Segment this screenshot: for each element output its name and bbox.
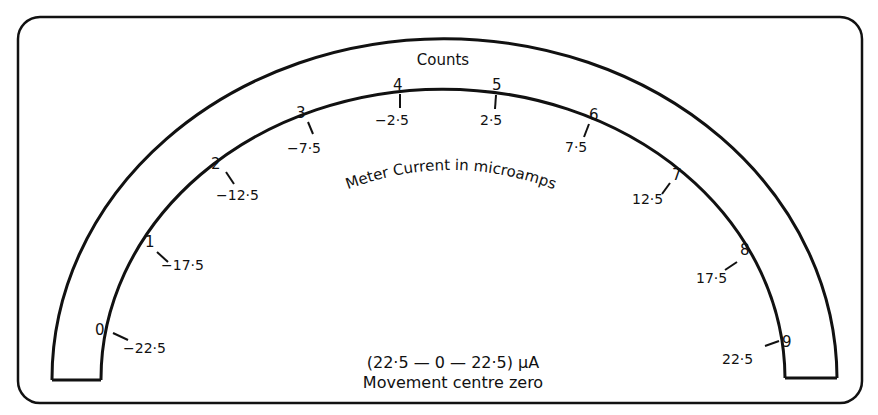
count-label-8: 8 bbox=[740, 241, 750, 259]
tick-3 bbox=[308, 122, 313, 134]
inner-arc bbox=[101, 89, 785, 380]
count-label-0: 0 bbox=[95, 321, 105, 339]
count-labels: 0 1 2 3 4 5 6 7 8 9 bbox=[95, 76, 792, 351]
count-label-2: 2 bbox=[211, 155, 221, 173]
count-label-1: 1 bbox=[145, 233, 155, 251]
current-label-6: 7·5 bbox=[565, 139, 587, 155]
count-label-6: 6 bbox=[589, 106, 599, 124]
scale-band bbox=[52, 39, 837, 380]
tick-marks bbox=[113, 94, 779, 346]
tick-7 bbox=[662, 183, 670, 194]
count-label-5: 5 bbox=[492, 76, 502, 94]
current-label-0: −22·5 bbox=[123, 340, 166, 356]
tick-2 bbox=[226, 172, 234, 184]
current-labels: −22·5 −17·5 −12·5 −7·5 −2·5 2·5 7·5 12·5… bbox=[123, 112, 753, 367]
meter-scale-diagram: 0 1 2 3 4 5 6 7 8 9 −22·5 −17·5 −12·5 −7… bbox=[0, 0, 878, 415]
tick-8 bbox=[725, 262, 737, 270]
current-label-7: 12·5 bbox=[632, 191, 663, 207]
tick-9 bbox=[765, 341, 779, 346]
count-label-3: 3 bbox=[296, 104, 306, 122]
current-label-3: −7·5 bbox=[287, 140, 321, 156]
arc-caption: Meter Current in microamps bbox=[343, 156, 559, 193]
movement-caption: Movement centre zero bbox=[363, 373, 543, 392]
tick-6 bbox=[584, 124, 589, 137]
scale-title-counts: Counts bbox=[417, 51, 470, 69]
current-label-2: −12·5 bbox=[216, 187, 259, 203]
count-label-7: 7 bbox=[672, 166, 682, 184]
current-label-1: −17·5 bbox=[161, 257, 204, 273]
count-label-9: 9 bbox=[782, 333, 792, 351]
current-label-9: 22·5 bbox=[722, 351, 753, 367]
current-label-4: −2·5 bbox=[375, 112, 409, 128]
arc-caption-text: Meter Current in microamps bbox=[343, 156, 559, 193]
current-label-5: 2·5 bbox=[480, 112, 502, 128]
tick-0 bbox=[113, 333, 128, 340]
count-label-4: 4 bbox=[393, 76, 403, 94]
tick-5 bbox=[495, 95, 496, 109]
current-label-8: 17·5 bbox=[696, 270, 727, 286]
range-caption: (22·5 — 0 — 22·5) μA bbox=[367, 353, 540, 372]
